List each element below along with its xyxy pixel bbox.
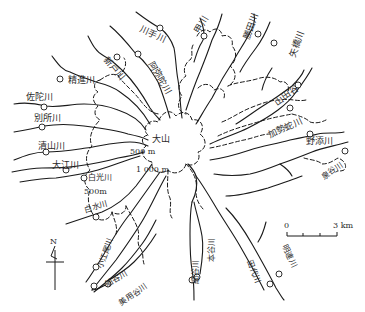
- label-tashiro: 田代川: [245, 259, 263, 285]
- label-kogawa: 甲川: [192, 14, 210, 35]
- gauge-stations: [39, 25, 348, 289]
- map-canvas: 川手川 甲川 勝田川 矢橋川 新戸川 阿弥陀川 精進川 佐陀川 別所川 清山川 …: [0, 0, 365, 312]
- river-map: 川手川 甲川 勝田川 矢橋川 新戸川 阿弥陀川 精進川 佐陀川 別所川 清山川 …: [0, 0, 365, 312]
- river-network: [12, 12, 348, 300]
- scale-bar: 0 3 km: [284, 221, 353, 236]
- summit-label: 大山: [152, 133, 170, 144]
- scale-end: 3 km: [333, 221, 353, 230]
- contour-label-500m-west: 500m: [84, 187, 107, 196]
- label-izumidani: 泉谷川: [319, 159, 344, 181]
- label-shiramizu: 白水川: [83, 199, 109, 215]
- label-seishin: 精進川: [68, 74, 95, 85]
- label-hakko: 白光川: [88, 172, 112, 182]
- north-arrow: N: [46, 237, 64, 290]
- label-oe: 大江川: [52, 159, 79, 170]
- label-bessho: 別所川: [34, 113, 61, 123]
- contour-label-500: 500 m: [130, 147, 156, 156]
- contour-label-1000: 1 000 m: [136, 165, 169, 174]
- scale-start: 0: [284, 221, 289, 230]
- label-sada: 佐陀川: [26, 91, 53, 102]
- contour-lines: [85, 29, 346, 264]
- label-kawate: 川手川: [138, 23, 167, 44]
- label-akenren: 明連川: [280, 243, 299, 269]
- label-hondani: 本谷川: [206, 238, 216, 262]
- label-kaseda: 加勢蛇川: [266, 115, 303, 140]
- label-yahashi: 矢橋川: [286, 29, 306, 58]
- label-miyotani: 美用谷川: [117, 281, 149, 308]
- label-kiyoyama: 清山川: [38, 140, 65, 151]
- river-labels: 川手川 甲川 勝田川 矢橋川 新戸川 阿弥陀川 精進川 佐陀川 別所川 清山川 …: [26, 12, 344, 308]
- label-hosodani: 細谷川: [190, 260, 200, 284]
- north-label: N: [50, 237, 57, 246]
- label-aminoda: 阿弥陀川: [147, 59, 175, 96]
- label-nozoe: 野添川: [306, 136, 333, 146]
